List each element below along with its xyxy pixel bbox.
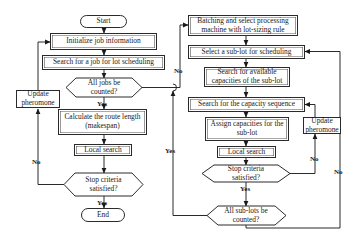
search-job-label: Search for a job for lot scheduling (53, 58, 154, 67)
right-no-inner-label: No (310, 155, 319, 163)
start-terminal: Start (80, 15, 127, 28)
calculate-label: Calculate the route length (makespan) (59, 113, 146, 131)
left-no-label: No (32, 158, 41, 166)
assign-label: Assign capacities for the sub-lot (206, 120, 288, 138)
right-update-pheromone-box: Update pheromone (303, 117, 341, 134)
select-sublot-box: Select a sub-lot for scheduling (188, 45, 305, 59)
select-sublot-label: Select a sub-lot for scheduling (202, 48, 292, 57)
end-terminal: End (81, 208, 125, 222)
batching-box: Batching and select processing machine w… (188, 15, 298, 36)
right-no-outer-label: No (334, 168, 343, 176)
left-yes-label-1: Yes (97, 100, 107, 108)
left-local-search-box: Local search (74, 144, 132, 156)
search-capacities-label: Search for available capacities of the s… (205, 68, 289, 86)
left-update-pheromone-box: Update pheromone (16, 90, 60, 108)
right-stop-label: Stop criteria satisfied? (214, 165, 278, 183)
search-sequence-label: Search for the capacity sequence (198, 100, 295, 109)
all-sublots-label: All sub-lots be counted? (216, 207, 276, 225)
calculate-route-box: Calculate the route length (makespan) (58, 109, 147, 135)
left-update-pheromone-label: Update pheromone (17, 90, 59, 108)
initialize-label: Initialize job information (66, 37, 140, 46)
right-local-search-label: Local search (228, 148, 266, 157)
initialize-job-box: Initialize job information (50, 33, 157, 50)
all-jobs-label: All jobs be counted? (74, 79, 134, 97)
all-sublots-decision: All sub-lots be counted? (216, 206, 276, 225)
search-sequence-box: Search for the capacity sequence (188, 97, 305, 112)
search-job-box: Search for a job for lot scheduling (42, 55, 165, 70)
left-yes-label-2: Yes (97, 199, 107, 207)
start-label: Start (97, 17, 111, 26)
all-jobs-decision: All jobs be counted? (74, 78, 134, 97)
search-capacities-box: Search for available capacities of the s… (204, 67, 290, 87)
end-label: End (97, 211, 109, 220)
right-update-pheromone-label: Update pheromone (304, 117, 340, 135)
jobs-no-label: No (174, 67, 183, 75)
right-yes-label: Yes (240, 185, 250, 193)
assign-capacities-box: Assign capacities for the sub-lot (205, 117, 289, 141)
left-stop-label: Stop criteria satisfied? (74, 176, 133, 194)
left-stop-decision: Stop criteria satisfied? (74, 173, 133, 196)
right-local-search-box: Local search (217, 146, 276, 158)
batching-label: Batching and select processing machine w… (189, 17, 297, 35)
right-stop-decision: Stop criteria satisfied? (214, 165, 278, 182)
sublots-yes-label: Yes (165, 147, 175, 155)
left-local-search-label: Local search (84, 146, 122, 155)
